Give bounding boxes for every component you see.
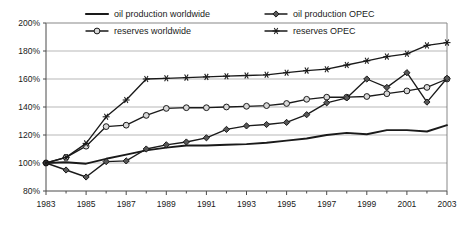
series-reserves-opec [43, 40, 451, 166]
ytick-label-120: 120% [18, 130, 40, 140]
legend-label: oil production OPEC [293, 9, 375, 19]
ytick-label-140: 140% [18, 102, 40, 112]
line-chart: 80%100%120%140%160%180%200%1983198519871… [0, 0, 465, 230]
chart-container: 80%100%120%140%160%180%200%1983198519871… [0, 0, 465, 230]
marker-open-circle [364, 94, 370, 100]
ytick-label-160: 160% [18, 74, 40, 84]
ytick-label-200: 200% [18, 18, 40, 28]
marker-asterisk [273, 28, 280, 34]
marker-open-circle [264, 103, 270, 109]
xtick-label-1991: 1991 [197, 199, 216, 209]
ytick-label-80: 80% [23, 186, 40, 196]
marker-asterisk [363, 58, 370, 64]
legend-item-oil-production-opec[interactable]: oil production OPEC [265, 9, 375, 19]
marker-asterisk [223, 73, 230, 79]
legend-label: oil production worldwide [114, 9, 210, 19]
ytick-label-180: 180% [18, 46, 40, 56]
marker-open-circle [183, 105, 189, 111]
marker-open-circle [143, 113, 149, 119]
marker-asterisk [323, 66, 330, 72]
legend-item-reserves-opec[interactable]: reserves OPEC [265, 26, 356, 36]
series-reserves-worldwide [43, 76, 450, 166]
marker-filled-diamond [243, 123, 249, 129]
marker-open-circle [244, 103, 250, 109]
marker-open-circle [404, 88, 410, 94]
legend-item-oil-production-worldwide[interactable]: oil production worldwide [86, 9, 210, 19]
marker-open-circle [94, 28, 100, 34]
marker-asterisk [183, 75, 190, 81]
xtick-label-1989: 1989 [157, 199, 176, 209]
ytick-label-100: 100% [18, 158, 40, 168]
marker-asterisk [423, 42, 430, 48]
marker-filled-diamond [203, 135, 209, 141]
marker-filled-diamond [273, 11, 279, 17]
legend-label: reserves OPEC [293, 26, 356, 36]
marker-asterisk [403, 51, 410, 57]
marker-asterisk [343, 62, 350, 68]
marker-open-circle [304, 96, 310, 102]
marker-filled-diamond [263, 121, 269, 127]
marker-open-circle [204, 105, 210, 111]
marker-asterisk [243, 72, 250, 78]
marker-asterisk [163, 75, 170, 81]
marker-asterisk [263, 72, 270, 78]
xtick-label-1995: 1995 [277, 199, 296, 209]
xtick-label-1985: 1985 [77, 199, 96, 209]
marker-open-circle [123, 122, 129, 128]
marker-asterisk [383, 54, 390, 60]
marker-filled-diamond [304, 112, 310, 118]
marker-filled-diamond [223, 126, 229, 132]
xtick-label-2001: 2001 [397, 199, 416, 209]
marker-filled-diamond [284, 119, 290, 125]
marker-asterisk [283, 70, 290, 76]
marker-open-circle [424, 85, 430, 91]
xtick-label-2003: 2003 [438, 199, 457, 209]
marker-open-circle [384, 91, 390, 97]
marker-asterisk [303, 68, 310, 74]
xtick-label-1983: 1983 [37, 199, 56, 209]
marker-open-circle [284, 101, 290, 107]
marker-filled-diamond [183, 139, 189, 145]
marker-open-circle [163, 106, 169, 112]
xtick-label-1993: 1993 [237, 199, 256, 209]
xtick-label-1999: 1999 [357, 199, 376, 209]
marker-filled-diamond [324, 100, 330, 106]
marker-filled-diamond [63, 167, 69, 173]
legend-item-reserves-worldwide[interactable]: reserves worldwide [86, 26, 191, 36]
legend-label: reserves worldwide [114, 26, 191, 36]
xtick-label-1987: 1987 [117, 199, 136, 209]
marker-open-circle [224, 104, 230, 110]
marker-open-circle [103, 124, 109, 130]
xtick-label-1997: 1997 [317, 199, 336, 209]
